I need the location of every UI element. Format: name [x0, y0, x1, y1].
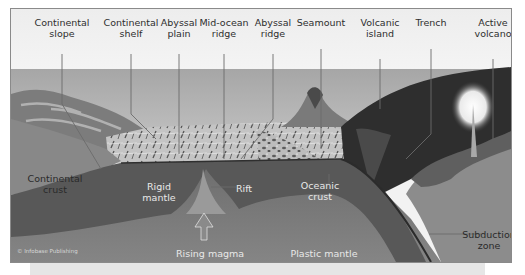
label-rigid-mantle: Rigid mantle: [139, 181, 179, 203]
label-rising-magma: Rising magma: [176, 248, 236, 259]
label-line: Abyssal: [154, 17, 204, 28]
label-line: Trench: [406, 17, 456, 28]
label-continental-crust: Continental crust: [25, 173, 85, 195]
label-line: island: [355, 28, 405, 39]
label-line: plain: [154, 28, 204, 39]
label-line: ridge: [248, 28, 298, 39]
label-line: Continental: [101, 17, 161, 28]
label-line: Active: [468, 17, 512, 28]
label-line: shelf: [101, 28, 161, 39]
label-line: Subduction: [461, 229, 512, 240]
label-continental-shelf: Continental shelf: [101, 17, 161, 39]
label-mid-ocean-ridge: Mid-ocean ridge: [199, 17, 249, 39]
label-line: Continental: [25, 173, 85, 184]
label-line: Seamount: [296, 17, 346, 28]
label-line: ridge: [199, 28, 249, 39]
label-trench: Trench: [406, 17, 456, 28]
ocean-floor-illustration: [11, 9, 511, 262]
copyright-notice: © Infobase Publishing: [17, 248, 78, 254]
label-seamount: Seamount: [296, 17, 346, 28]
label-line: crust: [25, 184, 85, 195]
label-line: slope: [32, 28, 92, 39]
label-line: Plastic mantle: [290, 248, 357, 259]
label-rift: Rift: [229, 183, 259, 194]
label-line: Abyssal: [248, 17, 298, 28]
label-volcanic-island: Volcanic island: [355, 17, 405, 39]
label-line: Rift: [236, 183, 252, 194]
label-abyssal-ridge: Abyssal ridge: [248, 17, 298, 39]
label-plastic-mantle: Plastic mantle: [289, 248, 359, 259]
label-line: Continental: [32, 17, 92, 28]
label-oceanic-crust: Oceanic crust: [295, 180, 345, 202]
label-line: mantle: [139, 192, 179, 203]
label-line: Rising magma: [176, 248, 244, 259]
diagram-panel: Continental slope Continental shelf Abys…: [10, 8, 512, 263]
label-line: Mid-ocean: [199, 17, 249, 28]
label-abyssal-plain: Abyssal plain: [154, 17, 204, 39]
label-active-volcano: Active volcano: [468, 17, 512, 39]
label-continental-slope: Continental slope: [32, 17, 92, 39]
label-subduction-zone: Subduction zone: [461, 229, 512, 251]
label-line: Rigid: [139, 181, 179, 192]
label-line: Volcanic: [355, 17, 405, 28]
label-line: Oceanic: [295, 180, 345, 191]
label-line: volcano: [468, 28, 512, 39]
label-line: zone: [461, 240, 512, 251]
label-line: crust: [295, 191, 345, 202]
